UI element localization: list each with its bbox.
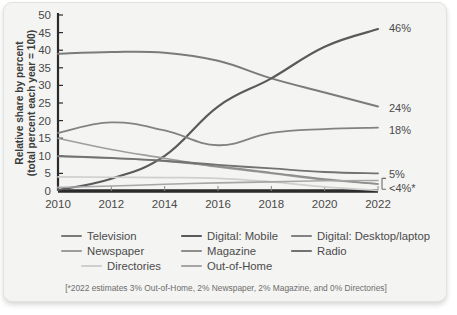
data-label-bracket-icon	[382, 178, 386, 189]
y-tick-label: 5	[45, 167, 51, 179]
y-tick-label: 50	[38, 9, 51, 21]
data-label: 24%	[389, 102, 411, 114]
legend-label-digital-mobile[interactable]: Digital: Mobile	[207, 230, 278, 242]
y-tick-label: 30	[38, 79, 51, 91]
legend-label-television[interactable]: Television	[87, 230, 137, 242]
data-label: 5%	[389, 168, 405, 180]
y-axis-title-line2: (total percent each year = 100)	[26, 30, 37, 176]
legend-label-newspaper[interactable]: Newspaper	[87, 245, 144, 257]
data-label: 46%	[389, 22, 411, 34]
y-axis-title-line1: Relative share by percent	[14, 41, 25, 165]
x-tick-label: 2020	[312, 198, 338, 210]
y-tick-label: 25	[38, 97, 51, 109]
y-tick-label: 45	[38, 27, 51, 39]
x-tick-label: 2018	[259, 198, 285, 210]
legend-label-directories[interactable]: Directories	[107, 260, 161, 272]
x-tick-label: 2012	[99, 198, 125, 210]
x-tick-label: 2022	[365, 198, 391, 210]
y-tick-label: 10	[38, 150, 51, 162]
series-line-radio	[58, 156, 378, 174]
chart-footnote: [*2022 estimates 3% Out-of-Home, 2% News…	[65, 283, 387, 293]
series-line-television	[58, 52, 378, 107]
y-tick-label: 40	[38, 44, 51, 56]
legend-label-magazine[interactable]: Magazine	[207, 245, 256, 257]
chart-svg: 0510152025303540455020102012201420162018…	[4, 3, 448, 303]
series-line-digital-desktop-laptop	[58, 122, 378, 145]
x-tick-label: 2010	[45, 198, 71, 210]
y-tick-label: 0	[45, 185, 51, 197]
line-chart: 0510152025303540455020102012201420162018…	[4, 3, 448, 303]
x-tick-label: 2016	[205, 198, 231, 210]
data-label: 18%	[389, 124, 411, 136]
legend-label-digital-desktop-laptop[interactable]: Digital: Desktop/laptop	[317, 230, 430, 242]
y-tick-label: 15	[38, 132, 51, 144]
x-tick-label: 2014	[152, 198, 178, 210]
legend-label-out-of-home[interactable]: Out-of-Home	[207, 260, 272, 272]
y-tick-label: 20	[38, 115, 51, 127]
data-label: <4%*	[389, 182, 416, 194]
y-tick-label: 35	[38, 62, 51, 74]
chart-card: 0510152025303540455020102012201420162018…	[3, 2, 447, 302]
legend-label-radio[interactable]: Radio	[317, 245, 347, 257]
